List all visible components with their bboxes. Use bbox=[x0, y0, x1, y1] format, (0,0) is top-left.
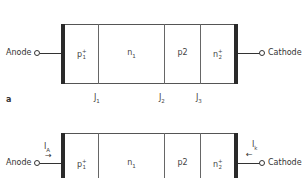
cathode-terminal bbox=[259, 50, 265, 56]
cathode-contact bbox=[234, 133, 238, 178]
anode-current-arrow-icon: → bbox=[45, 152, 52, 160]
region-p2: p2 bbox=[165, 159, 200, 167]
panel-label-a: a bbox=[6, 96, 11, 104]
cathode-lead bbox=[238, 53, 260, 54]
anode-label: Anode bbox=[6, 159, 31, 167]
cathode-label: Cathode bbox=[268, 159, 302, 167]
anode-lead bbox=[40, 53, 61, 54]
junction-j3-line bbox=[200, 133, 201, 178]
region-p1-plus: p+1 bbox=[65, 49, 98, 61]
junction-j2-line bbox=[164, 133, 165, 178]
cathode-lead bbox=[238, 163, 260, 164]
anode-lead bbox=[40, 163, 61, 164]
cathode-current-arrow-icon: ← bbox=[246, 151, 253, 159]
anode-terminal bbox=[34, 50, 40, 56]
anode-terminal bbox=[34, 160, 40, 166]
region-n1: n1 bbox=[99, 159, 164, 169]
region-n1: n1 bbox=[99, 49, 164, 59]
anode-contact bbox=[61, 133, 65, 178]
junction-j2-label: J2 bbox=[159, 94, 165, 104]
region-n2-plus: n+2 bbox=[201, 49, 234, 61]
region-n2-plus: n+2 bbox=[201, 159, 234, 171]
device-body bbox=[61, 133, 238, 178]
anode-label: Anode bbox=[6, 49, 31, 57]
junction-j1-label: J1 bbox=[94, 94, 100, 104]
junction-j1-line bbox=[98, 133, 99, 178]
region-p2: p2 bbox=[165, 49, 200, 57]
cathode-label: Cathode bbox=[268, 49, 302, 57]
cathode-terminal bbox=[259, 160, 265, 166]
cathode-contact bbox=[234, 24, 238, 84]
junction-j3-label: J3 bbox=[196, 94, 202, 104]
region-p1-plus: p+1 bbox=[65, 159, 98, 171]
